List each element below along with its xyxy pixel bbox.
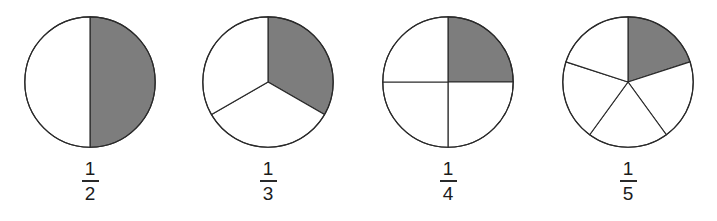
fraction-bar (620, 180, 637, 182)
fraction-bar (82, 180, 99, 182)
fraction-label-half: 1 2 (82, 159, 99, 203)
fraction-bar (260, 180, 277, 182)
pie-sector-shaded (448, 17, 513, 82)
numerator: 1 (620, 159, 637, 179)
fraction-model-half: 1 2 (0, 0, 180, 221)
pie-chart-fifth (561, 15, 695, 149)
denominator: 2 (82, 183, 99, 203)
denominator: 4 (440, 183, 457, 203)
fraction-label-third: 1 3 (260, 159, 277, 203)
pie-svg-half (23, 15, 157, 149)
pie-svg-quarter (381, 15, 515, 149)
fraction-label-fifth: 1 5 (620, 159, 637, 203)
pie-sector-unshaded (383, 17, 448, 82)
pie-sector-unshaded (25, 17, 90, 147)
pie-sector-unshaded (448, 82, 513, 147)
fraction-bar (440, 180, 457, 182)
pie-svg-third (201, 15, 335, 149)
fraction-model-quarter: 1 4 (358, 0, 538, 221)
numerator: 1 (82, 159, 99, 179)
denominator: 3 (260, 183, 277, 203)
pie-sector-shaded (90, 17, 155, 147)
pie-svg-fifth (561, 15, 695, 149)
denominator: 5 (620, 183, 637, 203)
pie-chart-third (201, 15, 335, 149)
pie-sector-unshaded (383, 82, 448, 147)
fraction-circles-figure: 1 2 1 3 1 4 1 5 (0, 0, 717, 221)
numerator: 1 (260, 159, 277, 179)
pie-chart-quarter (381, 15, 515, 149)
fraction-model-fifth: 1 5 (538, 0, 717, 221)
pie-chart-half (23, 15, 157, 149)
fraction-model-third: 1 3 (178, 0, 358, 221)
fraction-label-quarter: 1 4 (440, 159, 457, 203)
numerator: 1 (440, 159, 457, 179)
